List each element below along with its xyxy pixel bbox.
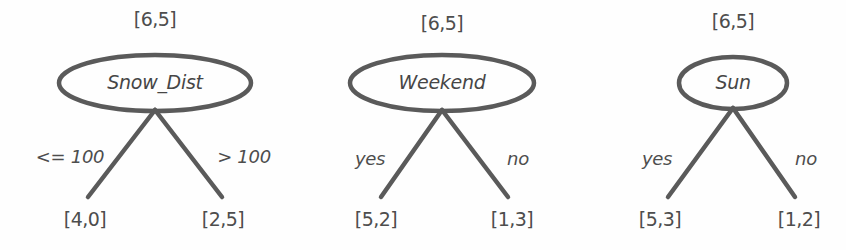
- edge-label-left: yes: [642, 150, 672, 168]
- tree-sun: [6,5]Sunyesno[5,3][1,2]: [0, 0, 846, 250]
- branch-edge-left: [668, 108, 733, 197]
- leaf-count-right: [1,2]: [778, 210, 821, 229]
- root-node-label: Sun: [715, 73, 750, 92]
- leaf-count-left: [5,3]: [639, 210, 682, 229]
- decision-tree-figure: [6,5]Snow_Dist<= 100> 100[4,0][2,5][6,5]…: [0, 0, 846, 250]
- tree-graphics: [0, 0, 846, 250]
- branch-edge-right: [733, 108, 795, 197]
- root-count-label: [6,5]: [712, 12, 755, 31]
- edge-label-right: no: [795, 150, 817, 168]
